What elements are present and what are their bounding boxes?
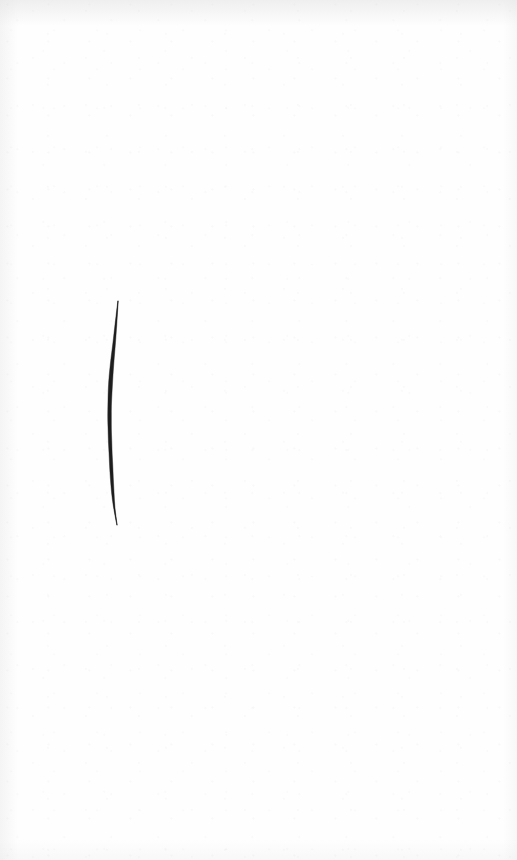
paper-background: [0, 0, 517, 860]
scanned-page: Blank white page with a single vertical …: [0, 0, 517, 860]
